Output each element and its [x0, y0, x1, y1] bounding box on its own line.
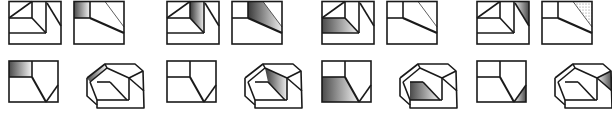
orthographic-figure	[0, 0, 612, 121]
view-group-d	[477, 2, 612, 109]
view-group-b	[167, 2, 302, 109]
view-group-c	[322, 2, 457, 109]
view-group-a	[9, 2, 144, 109]
